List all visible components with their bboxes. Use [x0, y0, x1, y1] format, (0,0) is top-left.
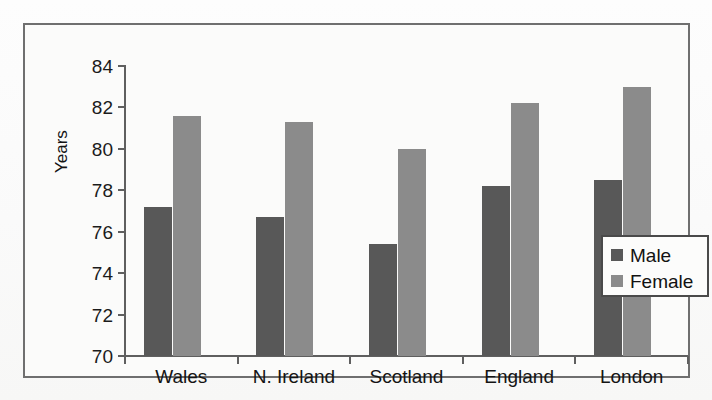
legend-swatch-female-icon [611, 275, 623, 287]
x-axis-tick [462, 356, 464, 364]
x-axis-label-scotland: Scotland [350, 366, 463, 388]
legend-swatch-male-icon [611, 249, 623, 261]
y-axis-tick-label: 82 [51, 98, 113, 117]
bar-male-wales [144, 207, 172, 356]
legend-item-female: Female [611, 268, 707, 294]
y-axis-tick [118, 272, 125, 274]
chart-frame: Years 8482807876747270 WalesN. IrelandSc… [23, 23, 690, 378]
bar-male-n-ireland [256, 217, 284, 356]
bar-female-n-ireland [285, 122, 313, 356]
legend-label-female: Female [630, 272, 693, 291]
legend-label-male: Male [630, 246, 671, 265]
y-axis-tick-label: 78 [51, 181, 113, 200]
legend-item-male: Male [611, 242, 707, 268]
y-axis-tick [118, 106, 125, 108]
x-axis-tick [349, 356, 351, 364]
x-axis-label-england: England [463, 366, 576, 388]
y-axis-tick-label: 70 [51, 347, 113, 366]
y-axis-tick-label: 72 [51, 306, 113, 325]
bar-male-england [482, 186, 510, 356]
y-axis-tick [118, 148, 125, 150]
bar-female-wales [173, 116, 201, 356]
y-axis-tick-label: 74 [51, 264, 113, 283]
bar-female-england [511, 103, 539, 356]
y-axis-tick [118, 314, 125, 316]
bar-female-scotland [398, 149, 426, 356]
x-axis-label-n-ireland: N. Ireland [238, 366, 351, 388]
x-axis-label-london: London [575, 366, 688, 388]
y-axis-tick [118, 231, 125, 233]
bar-male-scotland [369, 244, 397, 356]
x-axis-label-wales: Wales [125, 366, 238, 388]
bar-female-london [623, 87, 651, 356]
x-axis-tick [574, 356, 576, 364]
x-axis-tick [237, 356, 239, 364]
x-axis-tick [687, 356, 689, 364]
chart-legend: Male Female [601, 235, 709, 297]
y-axis-tick-label: 76 [51, 223, 113, 242]
y-axis-tick-label: 80 [51, 140, 113, 159]
plot-area [125, 66, 688, 356]
x-axis-tick-origin [124, 356, 126, 364]
y-axis-tick-label: 84 [51, 57, 113, 76]
y-axis-tick [118, 189, 125, 191]
y-axis-tick [118, 65, 125, 67]
